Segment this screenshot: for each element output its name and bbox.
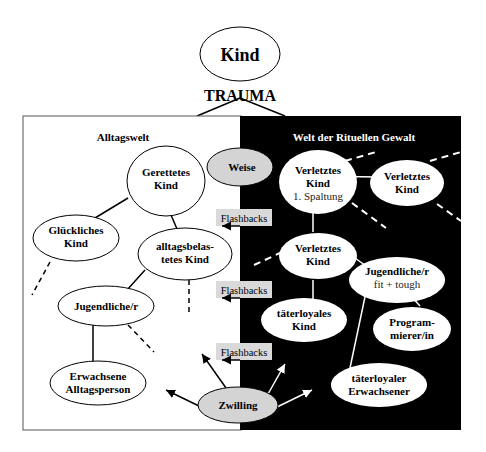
- flashback-1[interactable]: Flashbacks: [216, 209, 272, 226]
- svg-text:Alltagsperson: Alltagsperson: [66, 383, 131, 395]
- svg-text:Gerettetes: Gerettetes: [142, 166, 191, 178]
- node-verletztes-kind-1[interactable]: Verletztes Kind 1. Spaltung: [279, 150, 357, 214]
- svg-text:Kind: Kind: [306, 255, 330, 267]
- svg-text:täterloyaler: täterloyaler: [352, 372, 407, 384]
- node-zwilling[interactable]: Zwilling: [198, 387, 278, 423]
- svg-text:Kind: Kind: [292, 320, 316, 332]
- flashback-label: Flashbacks: [221, 347, 268, 358]
- trauma-diagram: Kind TRAUMA Alltagswelt Welt der Rituell…: [0, 0, 486, 452]
- svg-text:Glückliches: Glückliches: [48, 224, 104, 236]
- svg-text:Erwachsene: Erwachsene: [70, 370, 127, 382]
- svg-text:1. Spaltung: 1. Spaltung: [293, 190, 344, 202]
- node-erwachsene-alltagsperson[interactable]: Erwachsene Alltagsperson: [50, 361, 146, 405]
- node-verletztes-kind-3[interactable]: Verletztes Kind: [279, 233, 357, 279]
- svg-text:fit + tough: fit + tough: [374, 278, 421, 290]
- svg-text:Kind: Kind: [154, 179, 178, 191]
- node-glueckliches-kind[interactable]: Glückliches Kind: [33, 215, 119, 261]
- svg-text:täterloyales: täterloyales: [277, 307, 332, 319]
- svg-text:Kind: Kind: [306, 177, 330, 189]
- panel-title-alltagswelt: Alltagswelt: [97, 131, 150, 143]
- svg-text:Verletztes: Verletztes: [295, 164, 342, 176]
- node-jugendliche-left[interactable]: Jugendliche/r: [58, 286, 154, 326]
- svg-text:tetes Kind: tetes Kind: [161, 253, 209, 265]
- svg-text:Kind: Kind: [64, 237, 88, 249]
- svg-text:alltagsbelas-: alltagsbelas-: [156, 240, 214, 252]
- svg-text:Zwilling: Zwilling: [218, 399, 258, 411]
- flashback-2[interactable]: Flashbacks: [216, 281, 272, 298]
- node-alltagsbelastetes-kind[interactable]: alltagsbelas- tetes Kind: [138, 228, 232, 280]
- flashback-label: Flashbacks: [221, 213, 268, 224]
- svg-text:Verletztes: Verletztes: [384, 170, 431, 182]
- panel-title-rituelle-gewalt: Welt der Rituellen Gewalt: [293, 131, 416, 143]
- trauma-label: TRAUMA: [204, 87, 276, 104]
- flashback-3[interactable]: Flashbacks: [216, 343, 272, 360]
- flashback-label: Flashbacks: [221, 285, 268, 296]
- svg-text:Jugendliche/r: Jugendliche/r: [74, 300, 138, 312]
- node-jugendliche-fit-tough[interactable]: Jugendliche/r fit + tough: [349, 257, 445, 303]
- svg-text:Erwachsener: Erwachsener: [348, 385, 410, 397]
- svg-text:Verletztes: Verletztes: [295, 242, 342, 254]
- node-gerettetes-kind[interactable]: Gerettetes Kind: [127, 146, 205, 216]
- root-node-label: Kind: [220, 45, 259, 65]
- svg-text:mierer/in: mierer/in: [390, 329, 434, 341]
- node-programmierer[interactable]: Program- mierer/in: [373, 307, 451, 351]
- node-verletztes-kind-2[interactable]: Verletztes Kind: [370, 160, 444, 206]
- svg-text:Weise: Weise: [228, 161, 256, 173]
- node-taeterloyales-kind[interactable]: täterloyales Kind: [261, 298, 347, 342]
- node-taeterloyaler-erwachsener[interactable]: täterloyaler Erwachsener: [331, 363, 427, 407]
- svg-text:Program-: Program-: [389, 316, 435, 328]
- svg-text:Kind: Kind: [395, 183, 419, 195]
- root-node-kind[interactable]: Kind: [200, 27, 280, 81]
- svg-text:Jugendliche/r: Jugendliche/r: [365, 265, 429, 277]
- node-weise[interactable]: Weise: [207, 148, 273, 186]
